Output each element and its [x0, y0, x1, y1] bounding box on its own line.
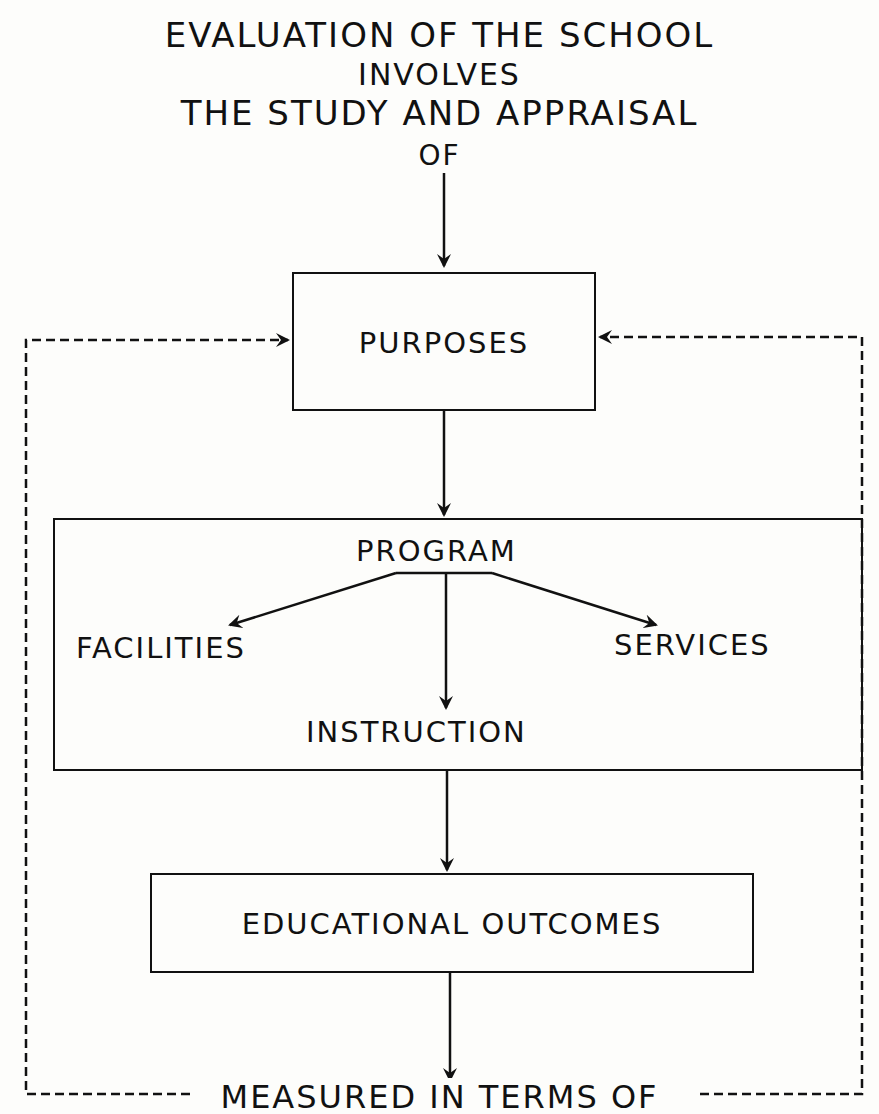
measured-text: MEASURED IN TERMS OF: [219, 1078, 661, 1114]
measured-label: MEASURED IN TERMS OF: [0, 1081, 879, 1113]
instruction-label: INSTRUCTION: [306, 718, 527, 747]
purposes-label: PURPOSES: [292, 329, 596, 358]
facilities-label: FACILITIES: [76, 634, 246, 663]
services-label: SERVICES: [614, 631, 771, 660]
outcomes-label: EDUCATIONAL OUTCOMES: [150, 910, 754, 939]
program-label: PROGRAM: [356, 537, 517, 566]
